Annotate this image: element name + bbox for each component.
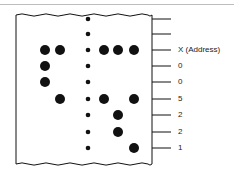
data-hole bbox=[113, 45, 123, 55]
sprocket-hole bbox=[86, 130, 91, 135]
data-hole bbox=[99, 45, 109, 55]
row-label: 0 bbox=[178, 78, 182, 86]
data-hole bbox=[113, 110, 123, 120]
sprocket-hole bbox=[86, 48, 91, 53]
sprocket-hole bbox=[86, 113, 91, 118]
data-hole bbox=[129, 45, 139, 55]
data-hole bbox=[40, 45, 50, 55]
data-hole bbox=[99, 94, 109, 104]
paper-tape bbox=[0, 0, 237, 178]
tape-bottom-torn-edge bbox=[16, 163, 152, 165]
sprocket-hole bbox=[86, 146, 91, 151]
row-label: X (Address) bbox=[178, 46, 220, 54]
row-label: 5 bbox=[178, 95, 182, 103]
data-hole bbox=[55, 94, 65, 104]
data-hole bbox=[40, 61, 50, 71]
sprocket-hole bbox=[86, 32, 91, 37]
paper-tape-diagram: X (Address)005221 bbox=[0, 0, 237, 178]
sprocket-hole bbox=[86, 17, 91, 22]
row-label: 2 bbox=[178, 128, 182, 136]
sprocket-hole bbox=[86, 97, 91, 102]
sprocket-hole bbox=[86, 64, 91, 69]
data-hole bbox=[129, 94, 139, 104]
row-label: 1 bbox=[178, 144, 182, 152]
tape-top-torn-edge bbox=[16, 14, 152, 16]
data-hole bbox=[40, 77, 50, 87]
data-hole bbox=[55, 45, 65, 55]
row-label: 2 bbox=[178, 111, 182, 119]
row-label: 0 bbox=[178, 62, 182, 70]
sprocket-hole bbox=[86, 80, 91, 85]
data-hole bbox=[113, 127, 123, 137]
data-hole bbox=[129, 143, 139, 153]
